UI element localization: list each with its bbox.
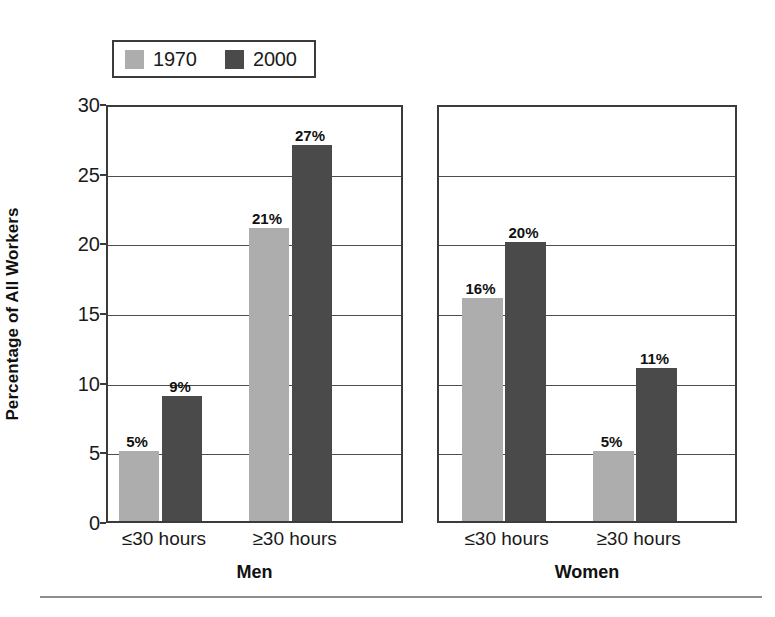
gridline <box>439 176 735 177</box>
gridline <box>108 176 401 177</box>
panel-title-men: Men <box>165 563 345 581</box>
bar-value-label: 27% <box>278 128 342 143</box>
group-label: ≥30 hours <box>225 529 365 548</box>
chart-legend: 1970 2000 <box>112 40 316 78</box>
legend-label-2000: 2000 <box>253 49 297 69</box>
y-tick-label: 20 <box>62 234 100 254</box>
y-tick-mark <box>100 174 106 176</box>
bar-value-label: 5% <box>579 434 644 449</box>
legend-swatch-1970 <box>125 50 144 69</box>
y-tick-mark <box>100 104 106 106</box>
y-tick-label: 15 <box>62 304 100 324</box>
y-axis-title: Percentage of All Workers <box>0 105 26 523</box>
y-tick-label: 25 <box>62 165 100 185</box>
y-tick-mark <box>100 243 106 245</box>
y-tick-label: 5 <box>62 443 100 463</box>
bar-men-le30-1970 <box>119 451 159 521</box>
bar-men-ge30-1970 <box>249 228 289 521</box>
panel-title-women: Women <box>497 563 677 581</box>
legend-label-1970: 1970 <box>153 49 197 69</box>
gridline <box>439 245 735 246</box>
group-label: ≥30 hours <box>569 529 709 548</box>
legend-swatch-2000 <box>225 50 244 69</box>
bar-women-le30-1970 <box>462 298 503 521</box>
legend-item-2000: 2000 <box>225 42 297 76</box>
y-tick-mark <box>100 313 106 315</box>
bar-value-label: 11% <box>622 351 687 366</box>
bar-men-le30-2000 <box>162 396 202 521</box>
y-tick-mark <box>100 452 106 454</box>
chart-panel-women <box>437 105 737 523</box>
group-label: ≤30 hours <box>437 529 577 548</box>
bar-value-label: 5% <box>105 434 169 449</box>
bar-men-ge30-2000 <box>292 145 332 521</box>
legend-item-1970: 1970 <box>125 42 197 76</box>
chart-panel-men <box>106 105 403 523</box>
y-tick-label: 30 <box>62 95 100 115</box>
y-axis-ticks: 302520151050 <box>58 0 100 617</box>
bar-women-ge30-1970 <box>593 451 634 521</box>
y-tick-mark <box>100 383 106 385</box>
group-label: ≤30 hours <box>94 529 234 548</box>
bar-value-label: 20% <box>491 225 556 240</box>
y-tick-label: 10 <box>62 374 100 394</box>
footer-divider <box>40 596 762 598</box>
y-tick-mark <box>100 522 106 524</box>
bar-value-label: 21% <box>235 211 299 226</box>
bar-value-label: 9% <box>148 379 212 394</box>
bar-value-label: 16% <box>448 281 513 296</box>
